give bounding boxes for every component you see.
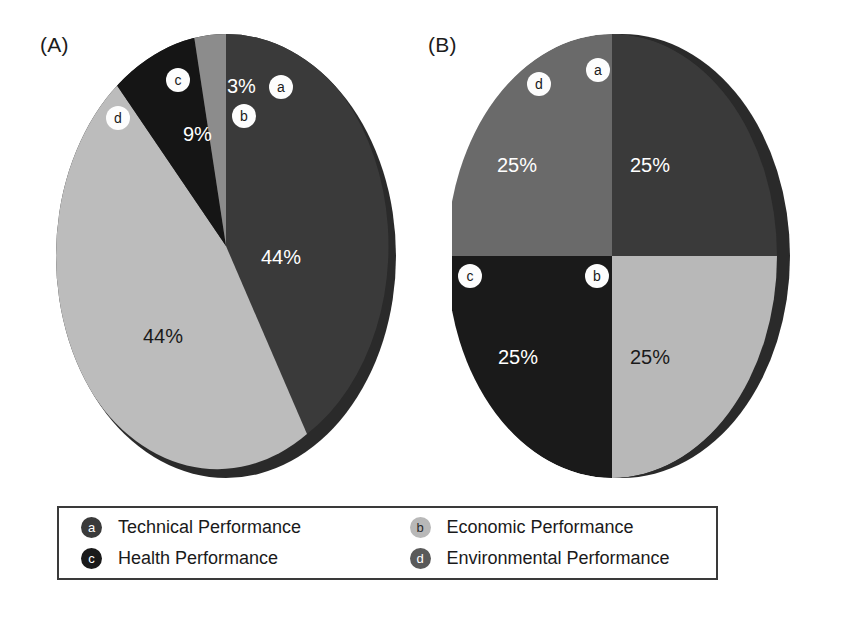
legend-item-c[interactable]: c Health Performance xyxy=(59,548,388,569)
legend-marker-c-icon: c xyxy=(81,548,102,569)
legend-item-a[interactable]: a Technical Performance xyxy=(59,517,388,538)
legend-marker-d-icon: d xyxy=(410,548,431,569)
legend-item-b[interactable]: b Economic Performance xyxy=(388,517,717,538)
pie-a-badge-a: a xyxy=(269,75,293,99)
pie-b-slice-a xyxy=(612,34,778,256)
pie-b-slice-b xyxy=(612,256,778,478)
legend-label-a: Technical Performance xyxy=(118,517,301,538)
pie-a-badge-b: b xyxy=(232,104,256,128)
pie-chart-a: 44% 3% 9% 44% a b c d xyxy=(46,28,406,488)
pie-a-badge-d: d xyxy=(106,106,130,130)
pie-a-svg xyxy=(46,28,406,488)
legend-label-b: Economic Performance xyxy=(447,517,634,538)
pie-b-slice-c xyxy=(452,256,612,478)
legend-item-d[interactable]: d Environmental Performance xyxy=(388,548,717,569)
legend-label-d: Environmental Performance xyxy=(447,548,670,569)
legend: a Technical Performance b Economic Perfo… xyxy=(57,506,718,580)
pie-b-badge-d: d xyxy=(527,72,551,96)
pie-a-badge-c: c xyxy=(166,68,190,92)
pie-b-slices xyxy=(452,34,778,478)
pie-b-badge-a: a xyxy=(586,58,610,82)
legend-marker-a-icon: a xyxy=(81,517,102,538)
pie-chart-b: 25% 25% 25% 25% a b c d xyxy=(452,28,792,488)
pie-b-badge-b: b xyxy=(585,264,609,288)
legend-label-c: Health Performance xyxy=(118,548,278,569)
legend-marker-b-icon: b xyxy=(410,517,431,538)
legend-grid: a Technical Performance b Economic Perfo… xyxy=(59,508,716,578)
pie-b-badge-c: c xyxy=(458,264,482,288)
figure-canvas: (A) 44% 3% 9% xyxy=(0,0,842,624)
pie-b-svg xyxy=(452,28,792,488)
